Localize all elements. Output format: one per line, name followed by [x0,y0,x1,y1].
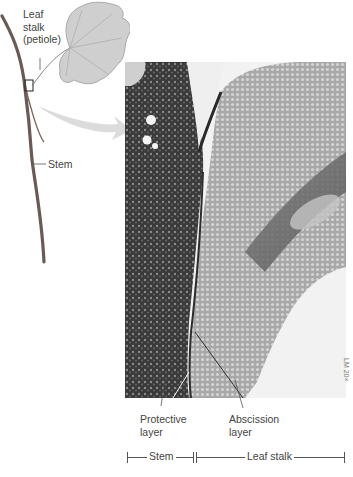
stem-segment-label: Stem [147,450,176,462]
leaf-stalk-segment-label: Leaf stalk [245,450,294,462]
leaf-stalk-label: Leaf stalk (petiole) [23,8,61,46]
magnification-note: LM 20× [343,358,350,382]
twig-stem [2,16,44,262]
micrograph-image [125,62,346,398]
region-bracket-bar: Stem Leaf stalk [127,457,345,471]
label-leaders [125,380,245,410]
protective-layer-label: Protective layer [140,413,187,438]
plant-twig-illustration [0,0,130,270]
stem-label: Stem [48,158,73,171]
abscission-layer-label: Abscission layer [229,413,279,438]
magnification-arrow [38,106,130,140]
